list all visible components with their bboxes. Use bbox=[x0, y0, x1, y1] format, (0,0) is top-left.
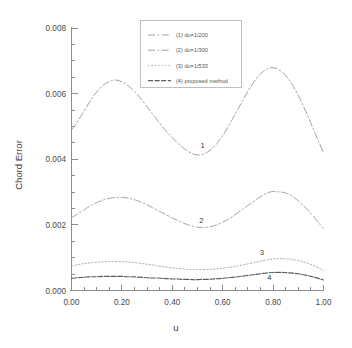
curve-series-3 bbox=[72, 259, 324, 271]
x-tick-label: 1.00 bbox=[316, 298, 332, 307]
curve-label-3: 3 bbox=[260, 248, 264, 257]
y-tick-label: 0.000 bbox=[46, 287, 67, 296]
curve-series-4 bbox=[72, 272, 324, 280]
x-tick-label: 0.80 bbox=[265, 298, 281, 307]
curve-inline-labels: 1234 bbox=[199, 141, 271, 282]
x-tick-label: 0.40 bbox=[164, 298, 180, 307]
x-axis-title: u bbox=[173, 322, 178, 333]
x-axis-tick-labels: 0.000.200.400.600.801.00 bbox=[64, 298, 332, 307]
legend-label-4: (4) proposed method bbox=[176, 78, 228, 84]
legend-entries: (1) du=1/200(2) du=1/300(3) du=1/533(4) … bbox=[148, 32, 228, 84]
y-tick-label: 0.006 bbox=[46, 90, 67, 99]
legend-label-2: (2) du=1/300 bbox=[176, 47, 208, 53]
x-tick-label: 0.20 bbox=[114, 298, 130, 307]
y-axis-major-ticks bbox=[72, 28, 78, 291]
legend-label-1: (1) du=1/200 bbox=[176, 32, 208, 38]
data-curves bbox=[72, 68, 324, 280]
y-tick-label: 0.004 bbox=[46, 155, 67, 164]
chart-figure: 0.0000.0020.0040.0060.008 0.000.200.400.… bbox=[0, 0, 352, 348]
curve-series-2 bbox=[72, 191, 324, 228]
y-tick-label: 0.008 bbox=[46, 24, 67, 33]
y-axis-title: Chord Error bbox=[13, 140, 24, 190]
x-tick-label: 0.00 bbox=[64, 298, 80, 307]
legend: (1) du=1/200(2) du=1/300(3) du=1/533(4) … bbox=[141, 21, 242, 88]
x-axis-minor-ticks bbox=[84, 287, 311, 291]
legend-label-3: (3) du=1/533 bbox=[176, 63, 208, 69]
chord-error-plot: 0.0000.0020.0040.0060.008 0.000.200.400.… bbox=[0, 0, 352, 348]
y-axis-tick-labels: 0.0000.0020.0040.0060.008 bbox=[46, 24, 67, 296]
x-tick-label: 0.60 bbox=[215, 298, 231, 307]
curve-label-4: 4 bbox=[267, 273, 271, 282]
curve-label-1: 1 bbox=[200, 141, 204, 150]
curve-label-2: 2 bbox=[199, 216, 203, 225]
y-tick-label: 0.002 bbox=[46, 221, 67, 230]
